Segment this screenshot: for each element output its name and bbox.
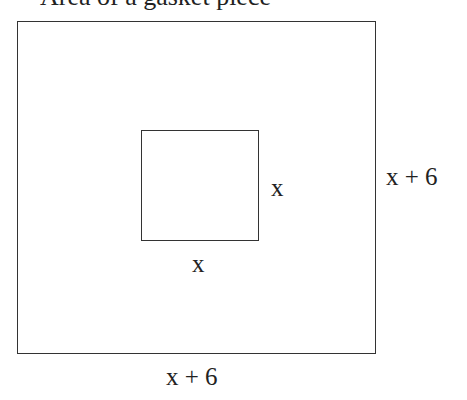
outer-square-bottom-label: x + 6 xyxy=(166,364,218,389)
inner-square xyxy=(141,130,259,241)
outer-square-right-label: x + 6 xyxy=(386,164,438,189)
inner-square-right-label: x xyxy=(271,175,284,200)
clipped-title-text: Area of a gasket piece xyxy=(40,0,271,12)
inner-square-bottom-label: x xyxy=(192,251,205,276)
